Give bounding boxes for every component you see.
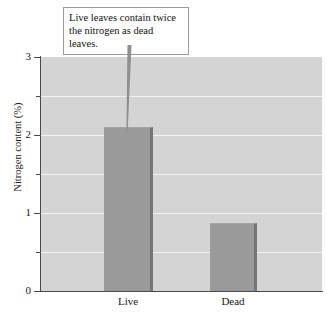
bar-live[interactable]: [104, 127, 153, 291]
annotation-pointer-icon: [110, 45, 146, 133]
bar-chart-figure: 3 2 1 0 Nitrogen content (%) Live Dead L…: [0, 0, 327, 314]
gridline-0-5: [41, 252, 322, 253]
x-tick-label-live: Live: [88, 295, 168, 308]
y-tick-1-5: [36, 174, 41, 175]
x-tick-label-dead: Dead: [193, 295, 273, 308]
gridline-2-5: [41, 96, 322, 97]
x-axis-line: [40, 291, 323, 292]
y-axis-title: Nitrogen content (%): [12, 77, 24, 217]
y-tick-1: [34, 213, 41, 214]
plot-area: [41, 57, 322, 291]
y-tick-label-3: 3: [9, 51, 31, 62]
annotation-line-1: Live leaves contain twice: [69, 11, 183, 24]
y-tick-2-5: [36, 96, 41, 97]
gridline-1-5: [41, 174, 322, 175]
bar-dead[interactable]: [210, 223, 257, 291]
y-tick-3: [34, 57, 41, 58]
y-tick-0-5: [36, 252, 41, 253]
y-tick-2: [34, 135, 41, 136]
gridline-1-0: [41, 213, 322, 214]
gridline-2-0: [41, 135, 322, 136]
y-tick-0: [34, 291, 41, 292]
y-tick-label-0: 0: [9, 285, 31, 296]
